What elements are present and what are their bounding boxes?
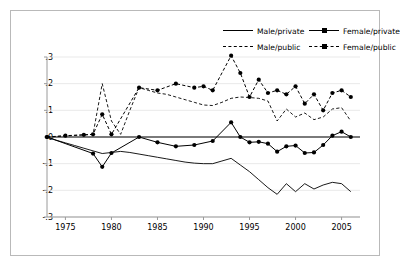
series-male-private xyxy=(47,137,351,194)
chart-panel: Male/private Male/public Female/private … xyxy=(10,10,380,256)
chart-plot-area xyxy=(11,11,381,257)
series-female-public xyxy=(45,54,353,140)
series-female-private xyxy=(45,120,353,169)
